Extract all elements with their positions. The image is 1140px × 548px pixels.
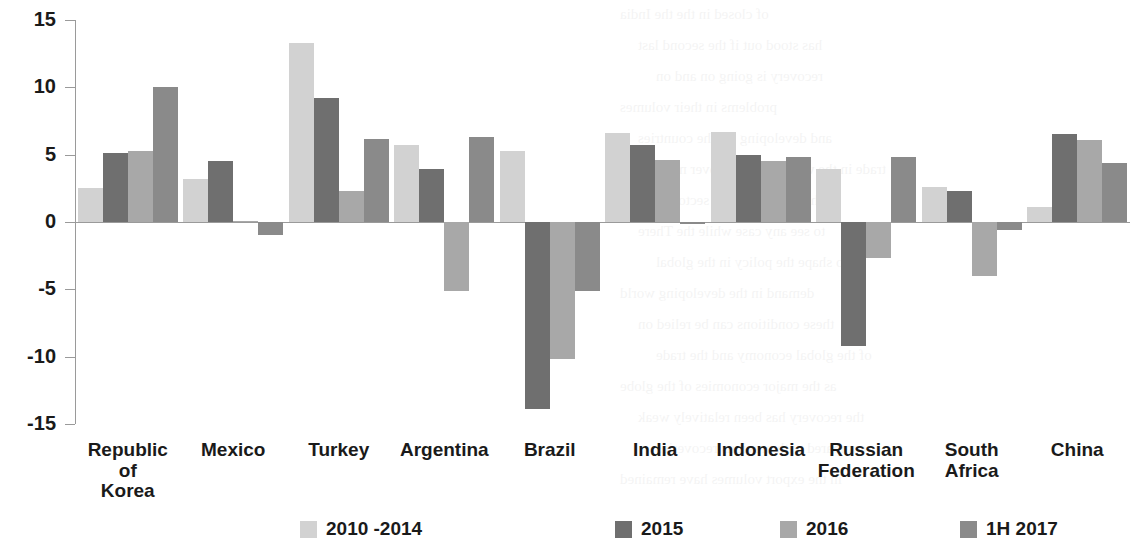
y-axis-tick [65, 155, 75, 156]
bar [891, 157, 916, 222]
bar [103, 153, 128, 222]
bar-group [394, 20, 494, 424]
bar [153, 87, 178, 222]
bar [866, 222, 891, 258]
bar [500, 151, 525, 222]
bar-group [183, 20, 283, 424]
x-axis-category-label-line: Korea [65, 481, 191, 502]
bar [1052, 134, 1077, 222]
legend-swatch-icon [300, 521, 317, 538]
bar-group [500, 20, 600, 424]
y-axis-tick-label: 15 [6, 9, 56, 29]
bar-group [1027, 20, 1127, 424]
bar [816, 169, 841, 222]
bar [419, 169, 444, 222]
x-axis-category-label-line: China [1015, 440, 1140, 461]
bar [1077, 140, 1102, 222]
bar [314, 98, 339, 222]
bar-group [289, 20, 389, 424]
bar [289, 43, 314, 222]
y-axis-tick-label: 10 [6, 76, 56, 96]
y-axis-tick-label: 0 [6, 211, 56, 231]
bar [233, 221, 258, 222]
legend-item[interactable]: 2010 -2014 [300, 518, 422, 540]
legend-item[interactable]: 2016 [780, 518, 848, 540]
y-axis-tick-label: -15 [6, 413, 56, 433]
bars-layer [75, 20, 1130, 424]
legend-item[interactable]: 2015 [615, 518, 683, 540]
bar [469, 137, 494, 222]
bar [786, 157, 811, 222]
x-axis-category-label: China [1015, 440, 1140, 461]
bar [1102, 163, 1127, 222]
legend-swatch-icon [615, 521, 632, 538]
bar [208, 161, 233, 222]
bar [575, 222, 600, 291]
bar-group [711, 20, 811, 424]
legend-item[interactable]: 1H 2017 [960, 518, 1058, 540]
legend-swatch-icon [780, 521, 797, 538]
y-axis-tick-label: -5 [6, 278, 56, 298]
bar [444, 222, 469, 291]
bar [655, 160, 680, 222]
bar [258, 222, 283, 235]
y-axis-tick [65, 289, 75, 290]
y-axis-tick [65, 20, 75, 21]
bar [605, 133, 630, 222]
bar [841, 222, 866, 346]
y-axis-tick [65, 424, 75, 425]
bar [364, 139, 389, 222]
bar [997, 222, 1022, 230]
bar [550, 222, 575, 359]
bar-group [605, 20, 705, 424]
bar-group [78, 20, 178, 424]
bar [761, 161, 786, 222]
bar [339, 191, 364, 222]
bar [630, 145, 655, 222]
bar [947, 191, 972, 222]
y-axis-tick [65, 222, 75, 223]
bar [394, 145, 419, 222]
bar [128, 151, 153, 222]
bar [922, 187, 947, 222]
chart-legend: 2010 -2014201520161H 2017 [0, 518, 1140, 548]
bar-chart: 151050-5-10-15 RepublicofKoreaMexicoTurk… [0, 0, 1140, 548]
bar [525, 222, 550, 409]
legend-swatch-icon [960, 521, 977, 538]
bar [972, 222, 997, 276]
legend-label: 2016 [806, 518, 848, 540]
bar [183, 179, 208, 222]
bar [736, 155, 761, 222]
bar-group [816, 20, 916, 424]
y-axis-tick-label: -10 [6, 346, 56, 366]
y-axis-tick [65, 87, 75, 88]
bar [711, 132, 736, 222]
bar [78, 188, 103, 222]
legend-label: 2015 [641, 518, 683, 540]
y-axis-tick-label: 5 [6, 144, 56, 164]
bar [1027, 207, 1052, 222]
x-axis-category-label-line: Africa [909, 461, 1035, 482]
x-axis-category-label-line: of [65, 461, 191, 482]
bar [680, 222, 705, 224]
y-axis-tick [65, 357, 75, 358]
legend-label: 2010 -2014 [326, 518, 422, 540]
legend-label: 1H 2017 [986, 518, 1058, 540]
bar-group [922, 20, 1022, 424]
